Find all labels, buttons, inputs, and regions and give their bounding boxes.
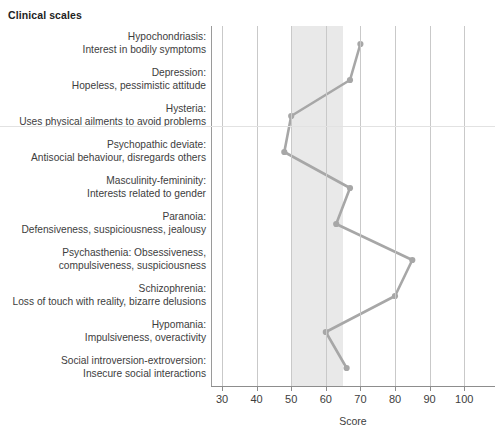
scale-description: Hopeless, pessimistic attitude (0, 80, 206, 93)
tick-label-90: 90 (423, 393, 435, 405)
scale-description: Loss of touch with reality, bizarre delu… (0, 296, 206, 309)
score-line-series (211, 26, 495, 386)
tick-label-50: 50 (285, 393, 297, 405)
tick-30 (222, 386, 223, 391)
gridline-40 (257, 26, 258, 386)
scale-label: Depression:Hopeless, pessimistic attitud… (0, 67, 206, 92)
scale-name: Masculinity-femininity: (0, 175, 206, 188)
chart-plot-area: Score 30405060708090100 (211, 26, 495, 386)
scale-label: Social introversion-extroversion:Insecur… (0, 355, 206, 380)
tick-50 (291, 386, 292, 391)
scale-name: Psychasthenia: Obsessiveness, (0, 247, 206, 260)
tick-100 (464, 386, 465, 391)
scale-label: Hypomania:Impulsiveness, overactivity (0, 319, 206, 344)
scale-name: Hysteria: (0, 103, 206, 116)
gridline-60 (326, 26, 327, 386)
scale-name: Hypochondriasis: (0, 31, 206, 44)
data-point (347, 77, 353, 83)
scale-description: compulsiveness, suspiciousness (0, 260, 206, 273)
scale-label: Psychopathic deviate:Antisocial behaviou… (0, 139, 206, 164)
scale-description: Defensiveness, suspiciousness, jealousy (0, 224, 206, 237)
data-point (281, 149, 287, 155)
tick-label-70: 70 (354, 393, 366, 405)
scale-label: Hysteria:Uses physical ailments to avoid… (0, 103, 206, 128)
data-point (333, 221, 339, 227)
scale-label: Psychasthenia: Obsessiveness,compulsiven… (0, 247, 206, 272)
gridline-100 (464, 26, 465, 386)
scale-label: Paranoia:Defensiveness, suspiciousness, … (0, 211, 206, 236)
scale-label-column: Hypochondriasis:Interest in bodily sympt… (0, 26, 206, 386)
tick-label-40: 40 (250, 393, 262, 405)
scale-description: Insecure social interactions (0, 368, 206, 381)
x-axis-line (211, 386, 495, 387)
data-point (409, 257, 415, 263)
scale-name: Schizophrenia: (0, 283, 206, 296)
scale-name: Depression: (0, 67, 206, 80)
scale-description: Antisocial behaviour, disregards others (0, 152, 206, 165)
scale-description: Interests related to gender (0, 188, 206, 201)
tick-90 (430, 386, 431, 391)
gridline-80 (395, 26, 396, 386)
tick-70 (360, 386, 361, 391)
gridline-70 (360, 26, 361, 386)
tick-label-100: 100 (455, 393, 473, 405)
scale-label: Hypochondriasis:Interest in bodily sympt… (0, 31, 206, 56)
page-title: Clinical scales (8, 9, 82, 21)
tick-label-60: 60 (320, 393, 332, 405)
tick-label-30: 30 (216, 393, 228, 405)
gridline-50 (291, 26, 292, 386)
horizontal-rule (0, 126, 495, 127)
scale-description: Interest in bodily symptoms (0, 44, 206, 57)
gridline-90 (430, 26, 431, 386)
scale-label: Masculinity-femininity:Interests related… (0, 175, 206, 200)
scale-label: Schizophrenia:Loss of touch with reality… (0, 283, 206, 308)
gridline-30 (222, 26, 223, 386)
scale-name: Social introversion-extroversion: (0, 355, 206, 368)
tick-label-80: 80 (389, 393, 401, 405)
scale-name: Hypomania: (0, 319, 206, 332)
data-point (347, 185, 353, 191)
tick-40 (257, 386, 258, 391)
data-point (344, 365, 350, 371)
x-axis-title: Score (211, 415, 495, 427)
scale-name: Psychopathic deviate: (0, 139, 206, 152)
tick-80 (395, 386, 396, 391)
scale-description: Impulsiveness, overactivity (0, 332, 206, 345)
tick-60 (326, 386, 327, 391)
scale-name: Paranoia: (0, 211, 206, 224)
